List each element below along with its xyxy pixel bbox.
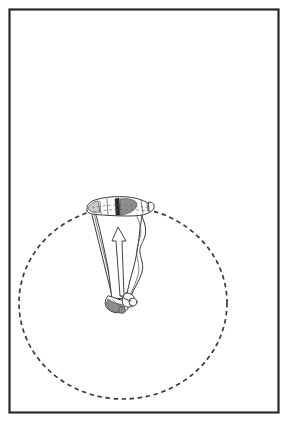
figure-canvas [0, 0, 287, 421]
harness-pulley [119, 307, 126, 314]
canopy-right-tip [149, 202, 154, 211]
canopy-dark-band [115, 198, 120, 215]
figure-page: Paraglider turn diagram [0, 0, 287, 421]
carabiner-ring [129, 298, 137, 306]
